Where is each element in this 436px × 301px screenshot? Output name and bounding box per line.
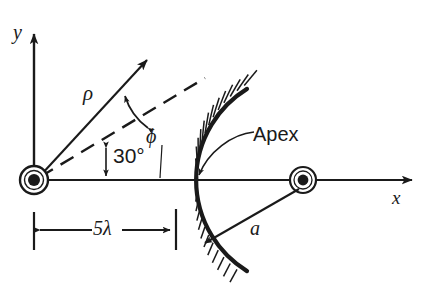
distance-5-lambda-label: 5λ [93, 218, 112, 238]
diagram-svg [0, 0, 436, 301]
radius-a-label: a [250, 218, 260, 238]
phi-leader-tick [160, 145, 162, 178]
apex-label: Apex [253, 124, 299, 144]
figure-canvas: y x ρ ϕ 30° Apex a 5λ [0, 0, 436, 301]
angle-30-label: 30° [113, 145, 145, 166]
phi-label: ϕ [146, 126, 156, 146]
center-of-curvature-symbol [290, 167, 316, 193]
reflector-hatching [196, 70, 257, 282]
rho-label: ρ [83, 83, 93, 104]
apex-leader-line [199, 132, 254, 175]
line-source-symbol-origin [20, 166, 48, 194]
y-axis-label: y [13, 22, 22, 42]
x-axis-label: x [392, 188, 400, 207]
